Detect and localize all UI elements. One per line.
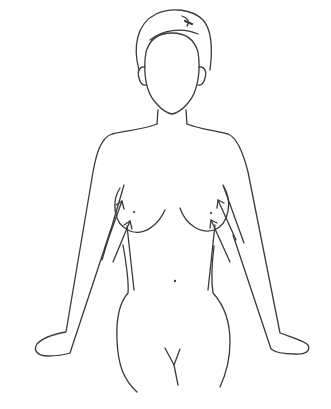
left-arrows xyxy=(102,185,134,290)
head xyxy=(136,10,211,114)
right-arrows xyxy=(208,185,244,290)
breasts xyxy=(115,187,229,232)
torso xyxy=(35,110,308,392)
body-outline-illustration xyxy=(0,0,331,409)
